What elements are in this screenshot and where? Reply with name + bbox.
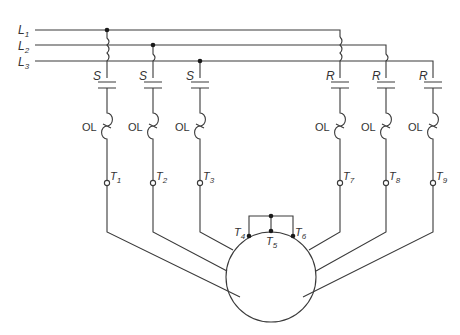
contactor-plates [98, 82, 442, 88]
svg-text:T8: T8 [389, 170, 401, 185]
contactor-labels: S S S R R R [93, 69, 428, 83]
svg-text:L3: L3 [18, 55, 30, 71]
motor-wiring-diagram: L1 L2 L3 S S S R R R OL OL OL OL OL OL T… [0, 0, 460, 335]
overload-labels: OL OL OL OL OL OL [82, 121, 423, 133]
svg-text:T3: T3 [203, 170, 215, 185]
terminal-labels: T1 T2 T3 T7 T8 T9 [110, 170, 448, 185]
svg-text:L2: L2 [18, 39, 30, 55]
terminal-circles [104, 180, 435, 185]
svg-text:T4: T4 [234, 226, 246, 241]
svg-text:OL: OL [361, 121, 376, 133]
svg-text:R: R [372, 69, 381, 83]
line-labels: L1 L2 L3 [18, 23, 30, 71]
svg-text:OL: OL [128, 121, 143, 133]
branch-r1 [340, 37, 342, 78]
svg-text:OL: OL [408, 121, 423, 133]
line-l1 [35, 30, 340, 37]
svg-text:OL: OL [315, 121, 330, 133]
svg-text:T1: T1 [110, 170, 121, 185]
svg-text:S: S [186, 69, 194, 83]
overload-columns [102, 88, 439, 180]
svg-text:L1: L1 [18, 23, 29, 39]
svg-text:OL: OL [82, 121, 97, 133]
svg-text:R: R [326, 69, 335, 83]
svg-text:T9: T9 [436, 170, 448, 185]
svg-text:OL: OL [175, 121, 190, 133]
svg-text:T2: T2 [156, 170, 168, 185]
branch-s1 [107, 30, 109, 78]
branch-r2 [386, 52, 388, 78]
line-l2 [35, 45, 386, 52]
svg-text:S: S [93, 69, 101, 83]
svg-text:T5: T5 [266, 235, 278, 250]
svg-text:S: S [139, 69, 147, 83]
svg-text:T7: T7 [343, 170, 355, 185]
svg-text:T6: T6 [295, 226, 307, 241]
svg-text:R: R [419, 69, 428, 83]
